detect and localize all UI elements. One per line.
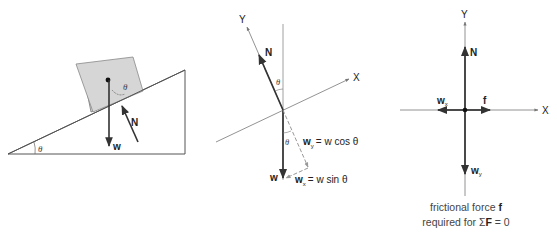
friction-label: f [483, 95, 487, 106]
angle-arc-bottom [283, 131, 291, 133]
angle-arc-top [275, 89, 283, 91]
wx-equation: wx= w sin θ [294, 174, 348, 187]
caption-line-2: required for ΣF = 0 [422, 216, 509, 228]
normal-label: N [470, 47, 477, 58]
x-axis-label: X [353, 72, 360, 83]
wy-equation: wy= w cos θ [302, 136, 359, 149]
angle-label-top: θ [276, 77, 280, 87]
y-axis-label: Y [461, 9, 468, 20]
weight-label: w [112, 141, 121, 152]
wy-label: wy [470, 165, 482, 177]
angle-label-bottom: θ [285, 137, 289, 147]
incline-panel: w N θ θ [8, 57, 185, 154]
normal-label: N [265, 47, 272, 58]
origin-dot [463, 108, 468, 113]
weight-label: w [269, 172, 278, 183]
caption-line-1: frictional force f [430, 201, 502, 213]
normal-label: N [131, 117, 138, 128]
block-angle-label: θ [123, 82, 128, 92]
incline-angle-label: θ [38, 144, 43, 154]
y-axis-label: Y [239, 14, 246, 25]
physics-diagram: w N θ θ Y X N θ w θ wy= [0, 0, 557, 234]
wx-label: wx [436, 95, 448, 107]
rotated-axes-panel: Y X N θ w θ wy= w cos θ wx= w sin θ [216, 14, 360, 187]
x-axis-label: X [542, 105, 549, 116]
free-body-panel: Y X N wx f wy frictional force f require… [400, 9, 549, 228]
incline-angle-arc [34, 142, 35, 154]
